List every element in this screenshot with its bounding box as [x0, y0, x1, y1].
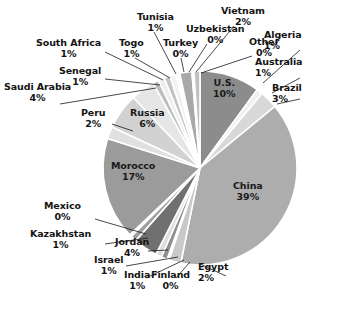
slice-label-mexico: Mexico0% — [44, 201, 81, 222]
slice-label-india: India1% — [124, 270, 150, 291]
slice-label-percent-china: 39% — [233, 192, 263, 203]
slice-label-percent-kazakhstan: 1% — [30, 240, 91, 251]
slice-label-percent-finland: 0% — [151, 281, 190, 292]
slice-label-percent-vietnam: 2% — [221, 17, 265, 28]
leader-line-turkey — [181, 58, 184, 72]
slice-label-senegal: Senegal1% — [59, 66, 101, 87]
leader-line-other — [201, 56, 252, 73]
slice-label-percent-uzbekistan: 0% — [186, 35, 244, 46]
slice-label-percent-saudi-arabia: 4% — [4, 93, 71, 104]
slice-label-vietnam: Vietnam2% — [221, 6, 265, 27]
slice-label-morocco: Morocco17% — [111, 161, 155, 182]
slice-label-china: China39% — [233, 181, 263, 202]
slice-label-togo: Togo1% — [119, 38, 144, 59]
slice-label-tunisia: Tunisia1% — [137, 12, 174, 33]
slice-label-peru: Peru2% — [81, 108, 105, 129]
slice-label-russia: Russia6% — [130, 108, 164, 129]
slice-label-percent-australia: 1% — [255, 68, 302, 79]
slice-label-algeria: Algeria1% — [264, 30, 302, 51]
slice-label-percent-tunisia: 1% — [137, 23, 174, 34]
slice-label-south-africa: South Africa1% — [36, 38, 101, 59]
slice-label-percent-israel: 1% — [94, 266, 123, 277]
slice-label-percent-morocco: 17% — [111, 172, 155, 183]
slice-label-percent-senegal: 1% — [59, 77, 101, 88]
slice-label-percent-mexico: 0% — [44, 212, 81, 223]
slice-label-australia: Australia1% — [255, 57, 302, 78]
slice-label-finland: Finland0% — [151, 270, 190, 291]
slice-label-percent-peru: 2% — [81, 119, 105, 130]
slice-label-percent-egypt: 2% — [198, 273, 228, 284]
slice-label-percent-russia: 6% — [130, 119, 164, 130]
slice-label-percent-india: 1% — [124, 281, 150, 292]
slice-label-jordan: Jordan4% — [115, 237, 149, 258]
pie-chart-figure: U.S.10%Australia1%Brazil3%China39%Egypt2… — [0, 0, 351, 315]
slice-label-percent-u-s: 10% — [213, 89, 235, 100]
slice-label-percent-togo: 1% — [119, 49, 144, 60]
slice-label-percent-south-africa: 1% — [36, 49, 101, 60]
slice-label-percent-turkey: 0% — [163, 49, 198, 60]
slice-label-u-s: U.S.10% — [213, 78, 235, 99]
slice-label-kazakhstan: Kazakhstan1% — [30, 229, 91, 250]
slice-label-percent-jordan: 4% — [115, 248, 149, 259]
slice-label-percent-algeria: 1% — [264, 41, 302, 52]
slice-label-percent-brazil: 3% — [272, 94, 302, 105]
leader-line-israel — [126, 257, 178, 266]
leader-line-senegal — [105, 79, 160, 85]
slice-label-brazil: Brazil3% — [272, 83, 302, 104]
slice-label-egypt: Egypt2% — [198, 262, 228, 283]
